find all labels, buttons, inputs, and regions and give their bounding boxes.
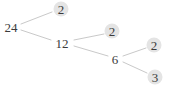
prime-node-2-top: 2 (54, 2, 69, 17)
prime-node-2-middle: 2 (105, 24, 120, 39)
edge-12-to-6 (74, 46, 108, 56)
edge-6-to-3 (123, 62, 147, 73)
edge-6-to-2 (123, 48, 146, 56)
tree-node-12: 12 (56, 37, 69, 50)
tree-edges (0, 0, 169, 93)
prime-node-3: 3 (148, 70, 163, 85)
tree-node-24: 24 (5, 21, 18, 34)
edge-24-to-2 (21, 12, 52, 24)
factor-tree-diagram: 24 2 12 2 6 2 3 (0, 0, 169, 93)
edge-12-to-2 (74, 34, 104, 40)
tree-node-6: 6 (112, 53, 119, 66)
edge-24-to-12 (21, 30, 51, 40)
prime-node-2-right: 2 (147, 38, 162, 53)
